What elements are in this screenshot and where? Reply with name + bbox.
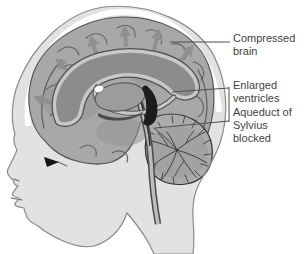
label-enlarged-ventricles: Enlarged ventricles [233,79,279,105]
cortex-shading [96,118,148,146]
hydrocephalus-diagram: Compressed brain Enlarged ventricles Aqu… [0,0,306,254]
label-aqueduct-blocked: Aqueduct of Sylvius blocked [233,106,292,145]
label-compressed-brain: Compressed brain [233,32,295,58]
